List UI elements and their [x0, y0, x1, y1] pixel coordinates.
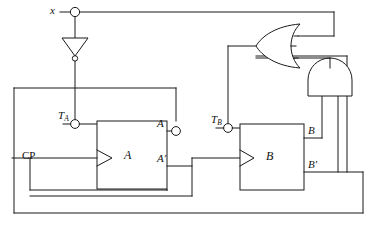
wire-bnot-to-bus — [304, 172, 363, 213]
terminal-ta[interactable] — [71, 120, 80, 129]
label-ta: TA — [58, 110, 69, 122]
circuit-diagram-canvas: x CP TA TB A B A A′ B B′ — [0, 0, 375, 233]
label-tb: TB — [211, 114, 222, 126]
wire-or-to-tb — [228, 46, 256, 124]
label-out-a-not: A′ — [157, 153, 166, 164]
inverter-bubble-icon — [72, 56, 77, 61]
terminal-a-out[interactable] — [172, 127, 181, 136]
label-out-b-not: B′ — [308, 159, 317, 170]
input-terminal-x[interactable] — [70, 7, 79, 16]
wire-left-rail — [14, 88, 363, 213]
label-flipflop-b: B — [266, 150, 273, 162]
terminal-tb[interactable] — [224, 124, 233, 133]
label-flipflop-a: A — [124, 149, 131, 161]
label-out-a: A — [157, 118, 164, 129]
label-out-b: B — [308, 125, 315, 136]
label-cp: CP — [22, 150, 35, 161]
inverter-gate — [62, 38, 88, 56]
label-input-x: x — [50, 5, 55, 16]
circuit-svg — [0, 0, 375, 233]
